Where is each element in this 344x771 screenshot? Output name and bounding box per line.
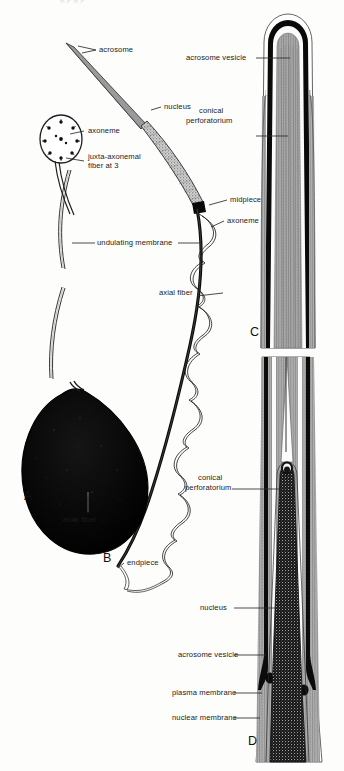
label-undulating-membrane: undulating membrane (97, 238, 172, 247)
label-plasma-membrane-panel-d: plasma membrane (172, 688, 236, 697)
panel-label-a: A (24, 489, 32, 503)
label-perforatorium-panel-c: perforatorium (186, 116, 232, 125)
label-conical-panel-d: conical (198, 473, 222, 482)
panel-label-b: B (103, 551, 111, 565)
label-perforatorium-panel-d: perforatorium (185, 483, 231, 492)
label-axoneme-cross-section: axoneme (88, 126, 120, 135)
panel-label-d: D (248, 734, 257, 748)
label-nucleus-panel-a: nucleus (164, 102, 191, 111)
sperm-anatomy-figure: g p g p (0, 0, 344, 771)
label-axoneme-tail: axoneme (227, 216, 259, 225)
label-midpiece: midpiece (230, 195, 261, 204)
panel-label-c: C (250, 325, 259, 339)
figure-artwork (0, 0, 344, 771)
label-acrosome-vesicle-panel-c: acrosome vesicle (186, 53, 246, 62)
label-axial-fiber-body: axial fiber (63, 515, 97, 524)
label-conical-panel-c: conical (199, 106, 223, 115)
label-acrosome: acrosome (99, 45, 133, 54)
label-juxta-axonemal-fiber: juxta-axonemal fiber at 3 (88, 152, 158, 170)
label-acrosome-vesicle-panel-d: acrosome vesicle (178, 650, 238, 659)
label-axial-fiber-tail: axial fiber (159, 288, 193, 297)
label-endpiece: endpiece (127, 558, 159, 567)
label-nuclear-membrane-panel-d: nuclear membrane (172, 713, 237, 722)
label-nucleus-panel-d: nucleus (200, 603, 227, 612)
